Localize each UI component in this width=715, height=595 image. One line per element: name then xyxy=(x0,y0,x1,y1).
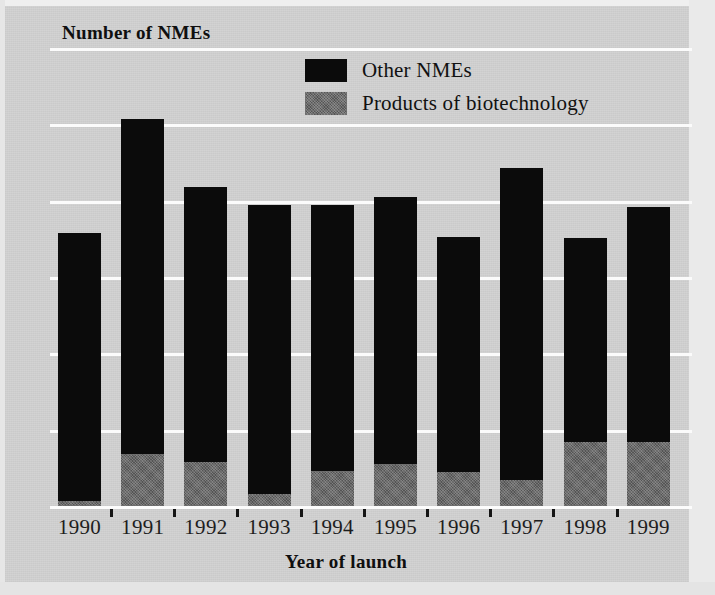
chart-figure: Number of NMEs Other NMEs Products of bi… xyxy=(0,0,715,595)
bar-segment-products-of-biotechnology xyxy=(311,471,354,508)
bar-segment-products-of-biotechnology xyxy=(627,442,670,508)
bar-1998 xyxy=(564,238,607,508)
bar-1999 xyxy=(627,207,670,508)
x-tick-label-1999: 1999 xyxy=(610,515,686,540)
bar-segment-other-nmes xyxy=(248,205,291,494)
bar-segment-products-of-biotechnology xyxy=(184,462,227,508)
bar-segment-other-nmes xyxy=(58,233,101,501)
bar-1990 xyxy=(58,233,101,508)
figure-border-right xyxy=(689,0,715,595)
bar-1991 xyxy=(121,119,164,508)
bar-segment-other-nmes xyxy=(184,187,227,462)
bar-segment-other-nmes xyxy=(500,168,543,479)
figure-border-bottom xyxy=(0,582,715,595)
bar-segment-other-nmes xyxy=(627,207,670,442)
bar-segment-other-nmes xyxy=(121,119,164,454)
bar-segment-products-of-biotechnology xyxy=(437,472,480,508)
bar-segment-products-of-biotechnology xyxy=(374,464,417,508)
bar-1996 xyxy=(437,237,480,508)
plot-area: 0102030405060 19901991199219931994199519… xyxy=(50,50,692,508)
bar-1995 xyxy=(374,197,417,508)
figure-border-top xyxy=(0,0,715,6)
bar-1997 xyxy=(500,168,543,508)
bar-1993 xyxy=(248,205,291,508)
bar-1992 xyxy=(184,187,227,508)
figure-border-left xyxy=(0,0,5,595)
x-axis-line xyxy=(50,506,692,509)
bar-segment-other-nmes xyxy=(437,237,480,472)
bar-1994 xyxy=(311,205,354,508)
bar-segment-other-nmes xyxy=(374,197,417,464)
bar-segment-products-of-biotechnology xyxy=(121,454,164,508)
bar-segment-products-of-biotechnology xyxy=(500,480,543,508)
x-axis-title: Year of launch xyxy=(0,551,692,573)
bar-segment-other-nmes xyxy=(564,238,607,442)
y-axis-title: Number of NMEs xyxy=(62,22,210,44)
bar-segment-other-nmes xyxy=(311,205,354,471)
bar-segment-products-of-biotechnology xyxy=(564,442,607,508)
gridline-60 xyxy=(50,48,692,51)
